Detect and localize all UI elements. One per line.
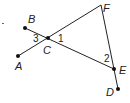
label-E: E [119, 64, 127, 76]
point-A [16, 54, 20, 58]
geometry-diagram: A B C D E F 1 2 3 [0, 0, 130, 103]
label-C: C [43, 44, 51, 56]
angle-label-1: 1 [58, 33, 64, 44]
label-A: A [14, 60, 22, 72]
segment-FD [101, 5, 118, 89]
point-C [46, 36, 50, 40]
label-D: D [106, 86, 114, 98]
angle-label-3: 3 [33, 33, 39, 44]
label-B: B [28, 13, 35, 25]
stray-mark [2, 23, 4, 24]
point-E [112, 67, 116, 71]
point-B [23, 26, 27, 30]
angle-label-2: 2 [104, 53, 110, 64]
label-F: F [103, 2, 111, 14]
point-D [116, 87, 120, 91]
